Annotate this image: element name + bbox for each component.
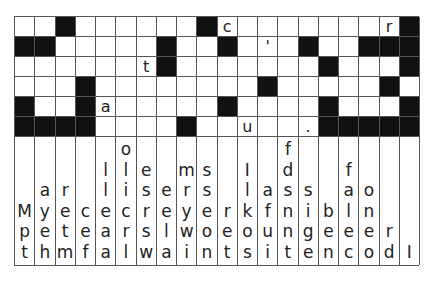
grid-cell[interactable] xyxy=(96,37,116,57)
grid-cell[interactable] xyxy=(15,17,35,37)
grid-cell[interactable] xyxy=(35,17,55,37)
grid-cell[interactable] xyxy=(35,97,55,117)
grid-cell[interactable] xyxy=(238,57,258,77)
bank-letter: r xyxy=(380,221,399,242)
grid-cell[interactable] xyxy=(278,57,298,77)
grid-cell[interactable] xyxy=(299,57,319,77)
grid-cell[interactable] xyxy=(137,17,157,37)
grid-cell[interactable] xyxy=(218,77,238,97)
grid-cell[interactable] xyxy=(116,57,136,77)
grid-cell[interactable] xyxy=(258,97,278,117)
grid-cell[interactable]: a xyxy=(96,97,116,117)
bank-letter xyxy=(177,139,196,160)
grid-cell[interactable] xyxy=(96,77,116,97)
grid-cell[interactable] xyxy=(258,17,278,37)
grid-cell[interactable] xyxy=(319,77,339,97)
grid-cell[interactable] xyxy=(359,77,379,97)
grid-cell[interactable] xyxy=(177,37,197,57)
grid-cell[interactable] xyxy=(278,17,298,37)
bank-letter: n xyxy=(319,242,338,263)
grid-cell[interactable] xyxy=(380,57,400,77)
grid-cell[interactable] xyxy=(15,77,35,97)
grid-cell[interactable] xyxy=(359,57,379,77)
grid-cell[interactable] xyxy=(278,117,298,137)
grid-cell[interactable] xyxy=(299,97,319,117)
grid-cell[interactable] xyxy=(319,17,339,37)
grid-cell[interactable]: c xyxy=(218,17,238,37)
grid-cell[interactable] xyxy=(15,57,35,77)
grid-cell[interactable] xyxy=(258,57,278,77)
grid-cell[interactable] xyxy=(116,17,136,37)
grid-cell[interactable] xyxy=(197,57,217,77)
bank-letter: e xyxy=(157,201,176,222)
grid-cell[interactable] xyxy=(116,97,136,117)
grid-cell[interactable] xyxy=(359,97,379,117)
grid-cell[interactable] xyxy=(197,97,217,117)
grid-cell[interactable] xyxy=(278,37,298,57)
grid-cell[interactable] xyxy=(218,57,238,77)
grid-cell[interactable] xyxy=(56,77,76,97)
grid-cell[interactable] xyxy=(319,37,339,57)
grid-cell[interactable] xyxy=(137,77,157,97)
grid-cell[interactable] xyxy=(278,97,298,117)
grid-cell[interactable] xyxy=(177,17,197,37)
grid-cell[interactable] xyxy=(157,17,177,37)
black-square xyxy=(400,97,420,117)
grid-cell[interactable] xyxy=(197,37,217,57)
grid-cell[interactable] xyxy=(238,17,258,37)
grid-cell[interactable] xyxy=(76,57,96,77)
grid-cell[interactable] xyxy=(380,97,400,117)
grid-cell[interactable] xyxy=(218,117,238,137)
grid-cell[interactable] xyxy=(157,97,177,117)
grid-cell[interactable] xyxy=(177,97,197,117)
grid-cell[interactable] xyxy=(96,117,116,137)
grid-cell[interactable] xyxy=(339,17,359,37)
grid-cell[interactable]: r xyxy=(380,17,400,37)
grid-cell[interactable] xyxy=(76,17,96,37)
grid-cell[interactable] xyxy=(35,77,55,97)
bank-letter xyxy=(380,139,399,160)
grid-cell[interactable] xyxy=(299,17,319,37)
bank-letter: a xyxy=(157,242,176,263)
grid-cell[interactable] xyxy=(157,117,177,137)
bank-letter: M xyxy=(15,201,34,222)
grid-cell[interactable] xyxy=(56,37,76,57)
grid-cell[interactable]: u xyxy=(238,117,258,137)
bank-letter xyxy=(157,160,176,181)
bank-letter: n xyxy=(278,201,297,222)
grid-cell[interactable] xyxy=(177,57,197,77)
grid-cell[interactable] xyxy=(157,77,177,97)
grid-cell[interactable] xyxy=(35,57,55,77)
grid-cell[interactable] xyxy=(137,117,157,137)
bank-letter: l xyxy=(96,160,115,181)
grid-cell[interactable] xyxy=(116,117,136,137)
grid-cell[interactable] xyxy=(96,57,116,77)
grid-cell[interactable] xyxy=(177,77,197,97)
grid-cell[interactable] xyxy=(258,117,278,137)
grid-cell[interactable] xyxy=(96,17,116,37)
grid-cell[interactable] xyxy=(56,57,76,77)
grid-cell[interactable] xyxy=(76,37,96,57)
grid-cell[interactable] xyxy=(238,37,258,57)
grid-cell[interactable]: . xyxy=(299,117,319,137)
grid-cell[interactable] xyxy=(137,37,157,57)
bank-letter xyxy=(359,160,378,181)
grid-cell[interactable] xyxy=(137,97,157,117)
grid-cell[interactable] xyxy=(339,77,359,97)
grid-cell[interactable] xyxy=(238,77,258,97)
grid-cell[interactable] xyxy=(197,77,217,97)
grid-cell[interactable] xyxy=(339,37,359,57)
grid-cell[interactable] xyxy=(278,77,298,97)
grid-cell[interactable] xyxy=(299,77,319,97)
grid-cell[interactable] xyxy=(359,17,379,37)
grid-cell[interactable] xyxy=(339,57,359,77)
grid-cell[interactable] xyxy=(339,97,359,117)
grid-cell[interactable]: ' xyxy=(258,37,278,57)
grid-cell[interactable]: t xyxy=(137,57,157,77)
grid-cell[interactable] xyxy=(56,97,76,117)
grid-cell[interactable] xyxy=(116,37,136,57)
grid-cell[interactable] xyxy=(238,97,258,117)
grid-cell[interactable] xyxy=(197,117,217,137)
grid-cell[interactable] xyxy=(400,77,420,97)
grid-cell[interactable] xyxy=(116,77,136,97)
